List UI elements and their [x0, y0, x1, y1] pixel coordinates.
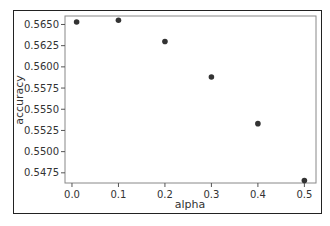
data-point [74, 19, 80, 25]
y-tick-label: 0.5475 [24, 167, 59, 178]
scatter-chart: 0.54750.55000.55250.55500.55750.56000.56… [0, 0, 330, 226]
y-tick-label: 0.5500 [24, 146, 59, 157]
data-point [302, 178, 308, 184]
y-tick-label: 0.5575 [24, 83, 59, 94]
data-point [209, 74, 215, 80]
data-point [162, 39, 168, 45]
data-point [255, 121, 261, 127]
y-axis-label: accuracy [13, 75, 26, 125]
x-tick-label: 0.1 [111, 189, 127, 200]
x-tick-label: 0.2 [157, 189, 173, 200]
x-tick-label: 0.0 [64, 189, 80, 200]
y-tick-label: 0.5650 [24, 19, 59, 30]
y-tick-label: 0.5525 [24, 125, 59, 136]
x-axis-label: alpha [175, 198, 206, 211]
plot-area [65, 16, 316, 183]
y-tick-label: 0.5550 [24, 104, 59, 115]
y-axis: 0.54750.55000.55250.55500.55750.56000.56… [24, 19, 65, 178]
y-tick-label: 0.5600 [24, 61, 59, 72]
y-tick-label: 0.5625 [24, 40, 59, 51]
x-tick-label: 0.4 [250, 189, 266, 200]
x-tick-label: 0.5 [296, 189, 312, 200]
data-point [116, 17, 122, 23]
x-tick-label: 0.3 [203, 189, 219, 200]
